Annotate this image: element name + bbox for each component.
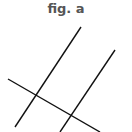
parallel-line-1 bbox=[15, 27, 81, 127]
diagram-canvas bbox=[0, 0, 132, 132]
parallel-line-2 bbox=[60, 50, 115, 132]
transversal-line bbox=[8, 79, 100, 132]
